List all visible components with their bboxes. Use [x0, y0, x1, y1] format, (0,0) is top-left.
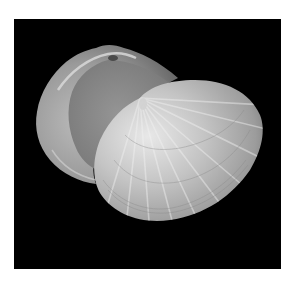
shell-photo: Bivalve clam shell with both valves visi… [14, 19, 281, 269]
umbo-back [108, 55, 118, 61]
umbo-front [139, 98, 147, 110]
clam-shell-illustration [14, 19, 281, 269]
